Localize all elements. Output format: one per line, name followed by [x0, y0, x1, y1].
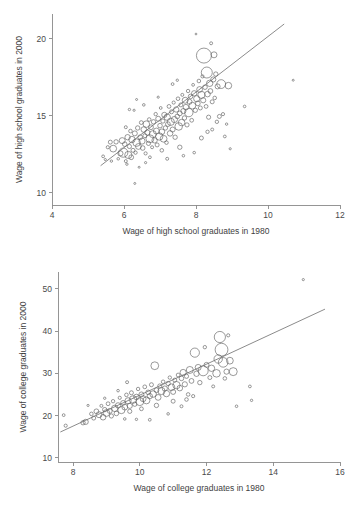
- data-point: [171, 399, 175, 403]
- data-point: [166, 157, 169, 160]
- data-point: [156, 133, 163, 140]
- data-point: [110, 160, 112, 162]
- data-point: [128, 108, 130, 110]
- data-point: [160, 149, 164, 153]
- data-point: [125, 393, 129, 397]
- data-point: [196, 48, 211, 63]
- data-point: [223, 135, 226, 138]
- x-tick-label: 8: [71, 467, 76, 477]
- data-point: [155, 143, 159, 147]
- data-point: [90, 412, 94, 416]
- data-point: [215, 120, 218, 123]
- data-point: [208, 89, 213, 94]
- data-point: [118, 396, 121, 399]
- data-point: [128, 409, 132, 413]
- data-point: [214, 331, 225, 342]
- data-point: [106, 146, 109, 149]
- data-point: [117, 157, 120, 160]
- data-point: [143, 104, 146, 107]
- data-point: [243, 105, 246, 108]
- data-point: [126, 163, 128, 165]
- x-tick-label: 8: [194, 210, 199, 220]
- data-point: [227, 334, 230, 337]
- scatter-plot-college: 1020304050810121416Wage of college gradu…: [0, 258, 363, 513]
- data-point: [148, 418, 151, 421]
- data-point: [151, 146, 154, 149]
- data-point: [140, 407, 144, 411]
- data-points-group: [102, 33, 294, 184]
- data-point: [190, 348, 199, 357]
- data-point: [108, 140, 112, 144]
- data-point: [119, 138, 125, 144]
- data-point: [127, 403, 132, 408]
- data-point: [198, 380, 202, 384]
- data-point: [213, 370, 221, 378]
- data-point: [201, 67, 212, 78]
- data-point: [171, 83, 174, 86]
- data-point: [124, 126, 127, 129]
- y-tick-label: 10: [43, 453, 53, 463]
- y-tick-label: 30: [43, 368, 53, 378]
- data-point: [184, 374, 188, 378]
- data-point: [178, 145, 182, 149]
- data-point: [124, 160, 127, 163]
- data-point: [132, 131, 137, 136]
- data-point: [211, 52, 217, 58]
- data-point: [145, 162, 147, 164]
- data-point: [176, 79, 178, 81]
- data-point: [144, 152, 147, 155]
- data-point: [176, 97, 180, 101]
- data-point: [180, 405, 183, 408]
- data-point: [158, 123, 163, 128]
- data-point: [154, 403, 158, 407]
- data-point: [64, 424, 67, 427]
- data-point: [129, 129, 133, 133]
- data-point: [167, 131, 173, 137]
- data-point: [110, 145, 117, 152]
- data-point: [182, 382, 187, 387]
- y-tick-label: 10: [37, 188, 47, 198]
- data-point: [151, 362, 159, 370]
- data-point: [193, 108, 197, 112]
- data-point: [185, 123, 189, 127]
- y-tick-label: 20: [43, 411, 53, 421]
- data-point: [224, 369, 229, 374]
- data-point: [302, 279, 304, 281]
- data-point: [138, 166, 140, 168]
- data-point: [193, 151, 196, 154]
- data-point: [143, 397, 150, 404]
- x-tick-label: 10: [135, 467, 145, 477]
- data-point: [186, 393, 190, 397]
- chart-panel-high-school: 1015204681012Wage of high school graduat…: [0, 0, 363, 255]
- y-axis-title: Wage of high school graduates in 2000: [14, 36, 24, 183]
- data-point: [213, 96, 217, 100]
- data-point: [119, 148, 128, 157]
- data-point: [136, 387, 139, 390]
- y-tick-label: 15: [37, 111, 47, 121]
- data-point: [212, 385, 215, 388]
- data-point: [167, 105, 171, 109]
- data-point: [134, 182, 136, 184]
- data-point: [198, 106, 202, 110]
- data-point: [192, 395, 195, 398]
- x-tick-label: 14: [269, 467, 279, 477]
- data-point: [208, 376, 212, 380]
- x-tick-label: 4: [50, 210, 55, 220]
- data-point: [133, 109, 135, 111]
- data-point: [186, 89, 189, 92]
- data-point: [182, 116, 186, 120]
- data-point: [111, 400, 114, 403]
- data-point: [154, 112, 157, 115]
- data-point: [123, 418, 126, 421]
- data-point: [235, 405, 238, 408]
- figure-page: 1015204681012Wage of high school graduat…: [0, 0, 363, 515]
- data-point: [147, 118, 151, 122]
- data-point: [205, 91, 211, 97]
- data-point: [204, 105, 208, 109]
- data-point: [157, 96, 159, 98]
- data-point: [161, 119, 165, 123]
- data-point: [135, 418, 137, 420]
- x-tick-label: 12: [202, 467, 212, 477]
- regression-line: [101, 24, 285, 166]
- data-point: [134, 151, 137, 154]
